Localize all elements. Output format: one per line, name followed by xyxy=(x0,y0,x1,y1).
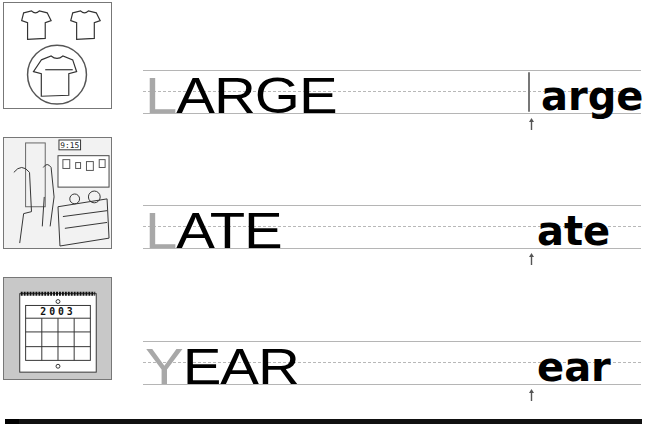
shirts-picture xyxy=(3,2,112,109)
word-row-large: LARGE arge xyxy=(143,70,641,114)
start-arrow-icon xyxy=(528,118,535,130)
calendar-year: 2003 xyxy=(40,306,75,317)
calendar-icon: 2003 xyxy=(4,278,111,379)
answer-year: ear xyxy=(537,349,611,385)
start-arrow-icon xyxy=(528,389,535,401)
calendar-picture: 2003 xyxy=(3,277,112,380)
word-rest: EAR xyxy=(183,338,299,394)
word-rest: ATE xyxy=(176,202,282,258)
answer-large: arge xyxy=(541,78,643,114)
clock-time: 9:15 xyxy=(60,141,79,150)
word-late: LATE xyxy=(145,209,282,252)
word-rest: ARGE xyxy=(176,67,336,123)
word-row-late: LATE ate xyxy=(143,205,641,249)
hint-letter: L xyxy=(145,202,176,258)
shirt-icon xyxy=(4,3,111,108)
bottom-corner-mark xyxy=(5,419,19,424)
word-large: LARGE xyxy=(145,74,337,117)
word-year: YEAR xyxy=(145,345,299,388)
start-arrow-icon xyxy=(528,253,535,265)
bottom-divider xyxy=(5,419,642,424)
word-row-year: YEAR ear xyxy=(143,341,641,385)
classroom-icon: 9:15 xyxy=(4,138,111,248)
hint-letter: Y xyxy=(145,338,183,394)
letter-tracing-stroke[interactable] xyxy=(528,72,530,112)
hint-letter: L xyxy=(145,67,176,123)
classroom-picture: 9:15 xyxy=(3,137,112,249)
answer-late: ate xyxy=(537,213,610,249)
